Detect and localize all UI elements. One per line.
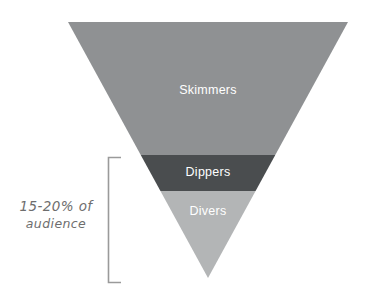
- funnel-diagram: Skimmers Dippers Divers 15-20% of audien…: [0, 0, 366, 302]
- funnel-segment-label-dippers: Dippers: [0, 165, 366, 179]
- annotation-line-1: 15-20% of: [6, 198, 106, 215]
- dippers-label-text: Dippers: [186, 165, 231, 179]
- audience-share-annotation: 15-20% of audience: [6, 198, 106, 232]
- funnel-segment-label-skimmers: Skimmers: [0, 83, 366, 97]
- divers-label-text: Divers: [190, 204, 227, 218]
- funnel-graphic: [0, 0, 366, 302]
- annotation-line-2: audience: [6, 215, 106, 232]
- skimmers-label-text: Skimmers: [179, 83, 237, 97]
